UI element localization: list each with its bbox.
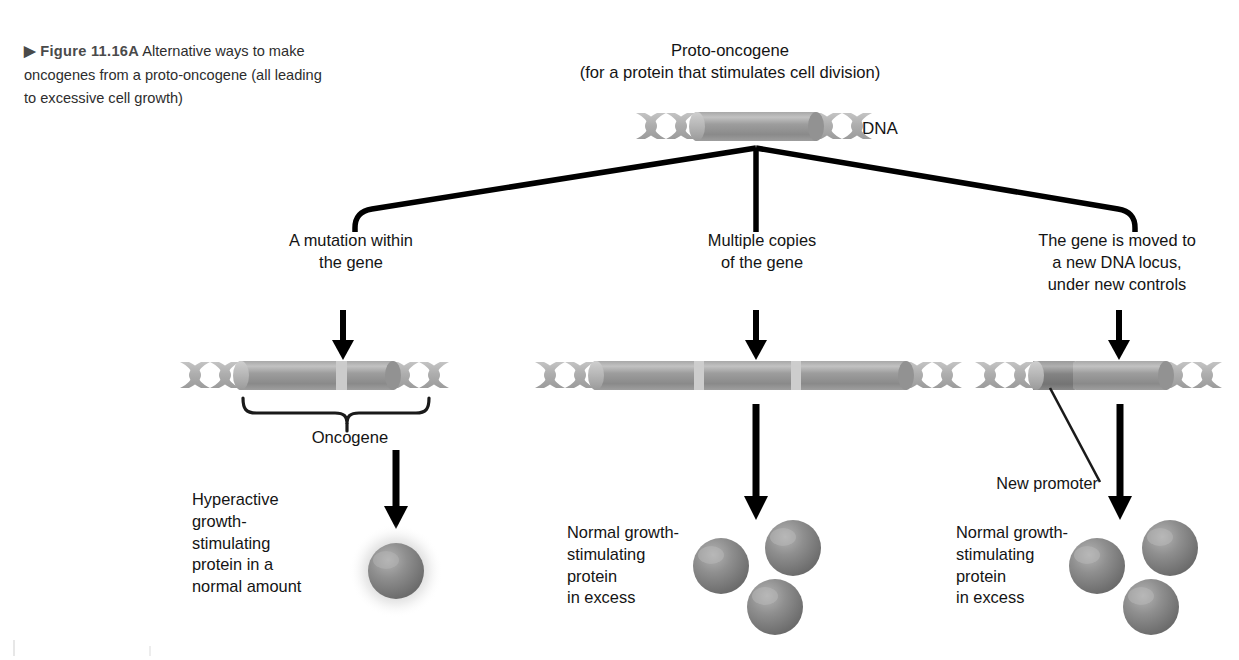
figure-caption: ▶ Figure 11.16A Alternative ways to make… — [24, 40, 336, 111]
protein-group-hyperactive — [349, 524, 443, 618]
caption-triangle-icon: ▶ — [24, 43, 36, 59]
outcome-text-relocation: Normal growth- stimulating protein in ex… — [956, 522, 1126, 609]
arrow-to-dna-right — [1108, 310, 1130, 360]
mutation-marker — [336, 361, 347, 390]
outcome-text-mutation: Hyperactive growth- stimulating protein … — [192, 489, 342, 598]
protein-sphere — [368, 543, 424, 599]
arrow-to-protein-mid — [744, 404, 768, 520]
branch-label-mutation: A mutation within the gene — [236, 230, 466, 274]
protein-sphere — [1142, 520, 1198, 576]
dna-strand-mutated-gene — [180, 361, 449, 390]
proto-oncogene-title: Proto-oncogene (for a protein that stimu… — [540, 40, 920, 84]
new-promoter-leader-line — [1050, 388, 1100, 482]
gene-copy-divider — [791, 361, 801, 390]
dna-strand-multiple-copies — [535, 361, 962, 390]
scan-edge-marks — [14, 640, 150, 656]
outcome-text-multiple-copies: Normal growth- stimulating protein in ex… — [567, 522, 737, 609]
new-promoter-label: New promoter — [948, 473, 1098, 495]
oncogene-bracket-label: Oncogene — [270, 427, 430, 449]
protein-sphere — [1123, 579, 1179, 635]
protein-sphere — [765, 520, 821, 576]
branch-label-relocation: The gene is moved to a new DNA locus, un… — [1000, 230, 1234, 295]
caption-figure-number: Figure 11.16A — [40, 43, 139, 59]
arrow-to-dna-mid — [745, 310, 767, 360]
branch-connector — [355, 148, 1135, 232]
dna-label: DNA — [862, 118, 898, 141]
arrow-to-protein-right — [1108, 404, 1132, 520]
branch-label-multiple-copies: Multiple copies of the gene — [642, 230, 882, 274]
arrow-to-protein-left — [384, 450, 408, 529]
arrow-to-dna-left — [332, 310, 354, 360]
new-promoter-segment — [1033, 361, 1075, 390]
figure-canvas: ▶ Figure 11.16A Alternative ways to make… — [0, 0, 1239, 660]
dna-strand-relocated-gene — [975, 361, 1222, 390]
protein-sphere — [747, 579, 803, 635]
protein-glow-halo — [349, 524, 443, 618]
gene-copy-divider — [694, 361, 704, 390]
dna-strand-proto-oncogene — [636, 112, 872, 141]
